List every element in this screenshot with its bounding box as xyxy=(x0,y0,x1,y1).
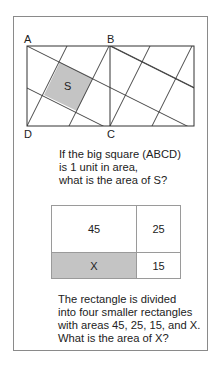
cell-45: 45 xyxy=(52,206,137,253)
vertex-label-b: B xyxy=(107,34,114,45)
cell-25: 25 xyxy=(137,206,180,253)
question-2-line: with areas 45, 25, 15, and X. xyxy=(58,319,200,332)
cell-15: 15 xyxy=(137,253,180,278)
question-1-line: is 1 unit in area, xyxy=(59,161,138,174)
region-label-s: S xyxy=(64,81,71,92)
question-2-line: into four smaller rectangles xyxy=(58,306,192,319)
vertex-label-d: D xyxy=(24,129,32,140)
question-1-line: what is the area of S? xyxy=(59,174,167,187)
vertex-label-c: C xyxy=(107,129,115,140)
vertex-label-a: A xyxy=(24,34,31,45)
rectangle-diagram: 45 25 X 15 xyxy=(51,205,181,279)
cell-x-shaded: X xyxy=(52,253,137,278)
question-2-line: What is the area of X? xyxy=(58,332,169,345)
question-1-line: If the big square (ABCD) xyxy=(59,148,181,161)
question-2-line: The rectangle is divided xyxy=(58,293,176,306)
